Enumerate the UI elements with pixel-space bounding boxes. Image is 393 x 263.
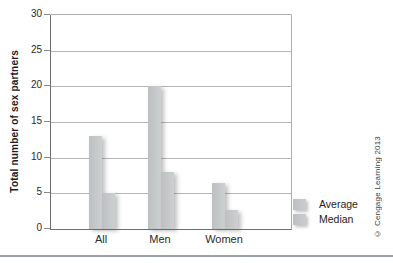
bar-chart-figure: Total number of sex partners 05101520253… xyxy=(0,0,393,263)
y-tick-mark-20 xyxy=(44,85,50,86)
y-tick-mark-15 xyxy=(44,121,50,122)
bar-median-women xyxy=(225,210,238,229)
plot-area xyxy=(50,14,292,230)
x-category-label-men: Men xyxy=(125,233,195,246)
legend-label-average: Average xyxy=(319,199,358,210)
y-axis-title-text: Total number of sex partners xyxy=(9,50,20,193)
x-category-label-women: Women xyxy=(189,233,259,246)
y-tick-label-15: 15 xyxy=(20,115,42,127)
gridline-20 xyxy=(51,86,291,87)
bar-average-men xyxy=(148,86,161,229)
y-tick-mark-10 xyxy=(44,157,50,158)
bar-median-all xyxy=(102,193,115,229)
copyright-text: © Cengage Learning 2013 xyxy=(373,136,382,238)
gridline-10 xyxy=(51,158,291,159)
legend-label-median: Median xyxy=(319,214,353,225)
copyright: © Cengage Learning 2013 xyxy=(371,0,383,238)
y-tick-label-20: 20 xyxy=(20,79,42,91)
bottom-rule xyxy=(0,255,393,257)
bar-average-all xyxy=(89,136,102,229)
gridline-25 xyxy=(51,51,291,52)
bar-average-women xyxy=(212,183,225,229)
y-tick-mark-0 xyxy=(44,228,50,229)
legend-swatch-median xyxy=(293,214,306,225)
y-tick-label-10: 10 xyxy=(20,151,42,163)
legend-swatch-average xyxy=(293,199,306,210)
legend: AverageMedian xyxy=(293,199,358,229)
y-tick-mark-30 xyxy=(44,14,50,15)
y-tick-label-5: 5 xyxy=(20,186,42,198)
y-tick-mark-5 xyxy=(44,192,50,193)
legend-item-median: Median xyxy=(293,214,358,225)
y-tick-mark-25 xyxy=(44,50,50,51)
gridline-15 xyxy=(51,122,291,123)
y-tick-label-25: 25 xyxy=(20,44,42,56)
legend-item-average: Average xyxy=(293,199,358,210)
bar-median-men xyxy=(161,172,174,229)
y-tick-label-0: 0 xyxy=(20,222,42,234)
y-tick-label-30: 30 xyxy=(20,8,42,20)
